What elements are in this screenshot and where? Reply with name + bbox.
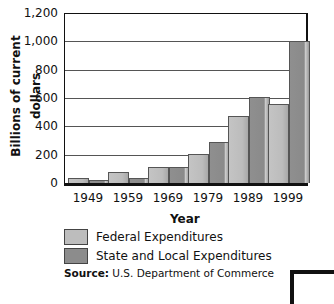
source-label: Source: (64, 267, 109, 279)
bar-federal-1999 (268, 104, 289, 183)
decorative-frame-corner (290, 270, 334, 304)
plot-area (64, 13, 308, 186)
legend-item-federal: Federal Expenditures (64, 229, 223, 245)
bar-state-1959 (129, 178, 150, 183)
bar-state-1949 (89, 180, 110, 183)
legend-item-state: State and Local Expenditures (64, 248, 272, 264)
bar-federal-1989 (228, 116, 249, 183)
bar-state-1999 (289, 41, 310, 183)
y-tick-label: 0 (20, 176, 58, 190)
y-tick-label: 1,200 (20, 6, 58, 20)
bar-state-1969 (169, 167, 190, 183)
x-tick-label: 1949 (68, 191, 108, 205)
source-note: Source: U.S. Department of Commerce (64, 267, 274, 279)
y-tick-label: 600 (20, 91, 58, 105)
legend-label-federal: Federal Expenditures (96, 230, 223, 244)
gridline (65, 70, 306, 71)
bar-federal-1979 (188, 154, 209, 183)
bar-federal-1949 (68, 178, 89, 183)
x-tick-label: 1999 (268, 191, 308, 205)
legend-swatch-state (64, 248, 88, 264)
source-text: U.S. Department of Commerce (109, 267, 274, 279)
legend-swatch-federal (64, 229, 88, 245)
y-tick-label: 200 (20, 148, 58, 162)
x-tick-label: 1969 (148, 191, 188, 205)
x-tick-label: 1959 (108, 191, 148, 205)
bar-state-1989 (249, 97, 270, 183)
bar-state-1979 (209, 142, 230, 183)
y-tick-label: 400 (20, 119, 58, 133)
x-tick-label: 1989 (228, 191, 268, 205)
x-tick-label: 1979 (188, 191, 228, 205)
bar-federal-1959 (108, 172, 129, 183)
y-tick-label: 800 (20, 63, 58, 77)
x-axis-label: Year (170, 212, 200, 226)
gridline (65, 41, 306, 42)
bar-federal-1969 (148, 167, 169, 183)
legend-label-state: State and Local Expenditures (96, 249, 272, 263)
y-tick-label: 1,000 (20, 34, 58, 48)
